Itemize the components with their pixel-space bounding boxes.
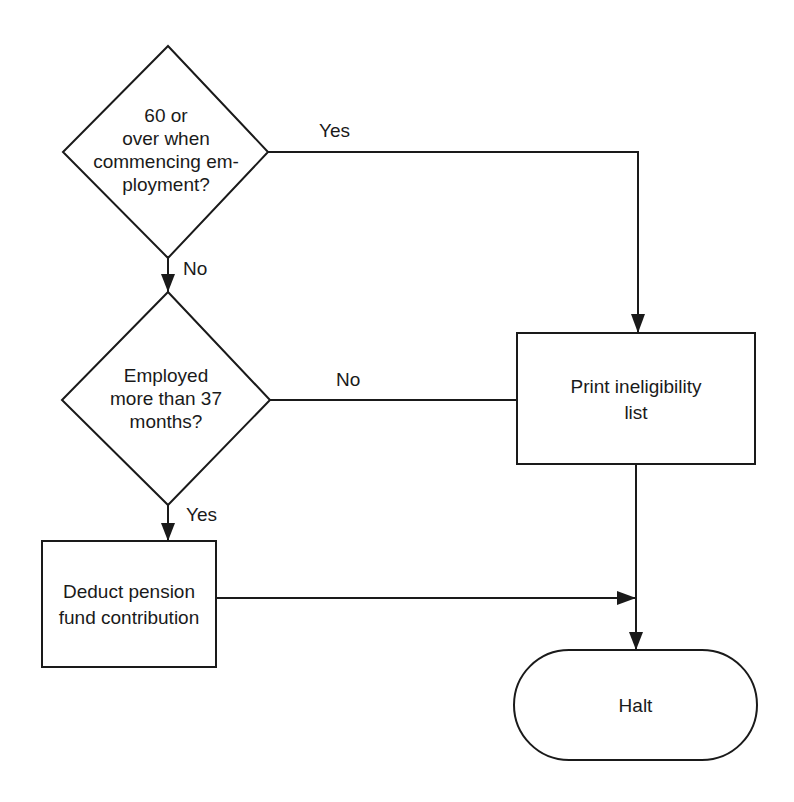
- process-deduct-label: Deduct pension fund contribution: [42, 579, 216, 631]
- edge-label-tenure-no: No: [336, 369, 360, 391]
- edge-age-yes: [268, 152, 638, 333]
- arrowhead-age-yes: [631, 314, 645, 333]
- edge-label-tenure-yes: Yes: [186, 504, 217, 526]
- decision-tenure-label: Employed more than 37 months?: [62, 364, 270, 433]
- terminal-halt-label: Halt: [514, 694, 757, 717]
- process-print-label: Print ineligibility list: [517, 374, 755, 426]
- decision-age-label: 60 or over when commencing em- ployment?: [63, 104, 269, 196]
- edge-label-age-yes: Yes: [319, 120, 350, 142]
- arrowhead-tenure-yes: [161, 523, 175, 541]
- arrowhead-print-halt: [629, 632, 643, 650]
- arrowhead-deduct-halt: [617, 591, 636, 605]
- edge-label-age-no: No: [183, 258, 207, 280]
- arrowhead-age-no: [161, 274, 175, 292]
